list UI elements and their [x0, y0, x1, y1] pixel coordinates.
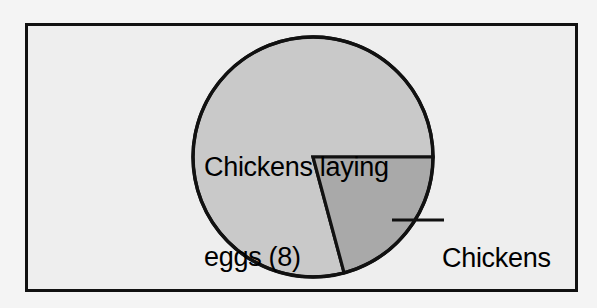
pie-label-chickens-not-laying-eggs: Chickens not laying eggs (2) — [442, 183, 555, 308]
pie-label-line: Chickens laying — [204, 152, 389, 182]
pie-label-chickens-laying-eggs: Chickens laying eggs (8) — [204, 92, 389, 308]
pie-label-line: eggs (8) — [204, 242, 389, 272]
chart-canvas: Chickens laying eggs (8) Chickens not la… — [0, 0, 597, 308]
pie-label-line: Chickens — [442, 243, 555, 273]
